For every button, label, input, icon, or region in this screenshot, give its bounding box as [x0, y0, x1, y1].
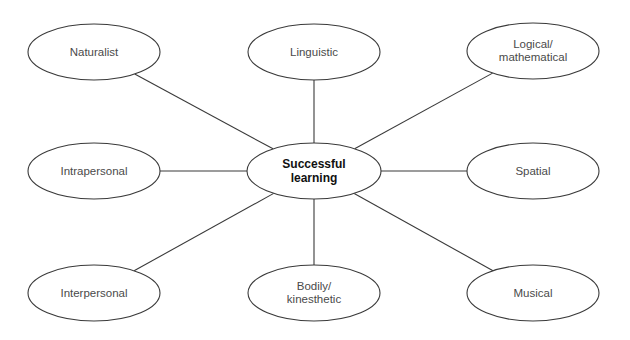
node-linguistic-ellipse — [248, 24, 380, 80]
connector-logical — [355, 73, 493, 149]
node-logical-ellipse — [467, 23, 599, 79]
node-interpersonal-ellipse — [28, 265, 160, 321]
connector-naturalist — [135, 74, 273, 149]
node-intrapersonal-ellipse — [28, 143, 160, 199]
connector-interpersonal — [134, 193, 274, 270]
connector-musical — [354, 193, 493, 270]
diagram-canvas — [0, 0, 630, 340]
node-spatial-ellipse — [467, 143, 599, 199]
node-bodily-ellipse — [248, 265, 380, 321]
node-musical-ellipse — [467, 265, 599, 321]
node-naturalist-ellipse — [28, 24, 160, 80]
center-node-ellipse — [247, 143, 381, 199]
multiple-intelligences-diagram: NaturalistLinguisticLogical/ mathematica… — [0, 0, 630, 340]
